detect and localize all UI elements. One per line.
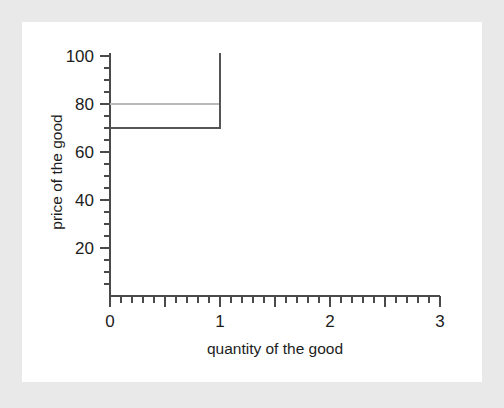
- y-axis-major-ticks: [100, 56, 110, 248]
- x-tick-label-2: 2: [325, 312, 334, 331]
- x-axis-title: quantity of the good: [207, 340, 343, 357]
- x-axis-major-ticks: [110, 296, 440, 307]
- x-tick-label-0: 0: [105, 312, 114, 331]
- screenshot-root: 20 40 60 80 100 price of the good: [0, 0, 504, 408]
- y-axis-minor-ticks: [104, 56, 110, 284]
- y-tick-label-100: 100: [66, 47, 94, 66]
- figure-card: 20 40 60 80 100 price of the good: [22, 22, 482, 382]
- x-tick-label-3: 3: [435, 312, 444, 331]
- x-axis: 0 1 2 3 quantity of the good: [105, 296, 444, 357]
- series-demand-line: [110, 53, 220, 128]
- y-tick-label-80: 80: [75, 95, 94, 114]
- x-tick-label-1: 1: [215, 312, 224, 331]
- chart-plot-area: 20 40 60 80 100 price of the good: [22, 22, 482, 382]
- y-axis: 20 40 60 80 100 price of the good: [48, 47, 110, 296]
- y-tick-label-20: 20: [75, 239, 94, 258]
- y-tick-label-40: 40: [75, 191, 94, 210]
- y-tick-label-60: 60: [75, 143, 94, 162]
- y-axis-title: price of the good: [48, 114, 65, 229]
